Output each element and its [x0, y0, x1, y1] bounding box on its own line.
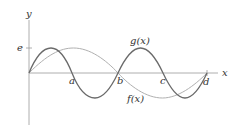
g-label: g(x)	[130, 35, 150, 46]
y-axis-label: y	[25, 8, 32, 19]
function-plot: y x e a b c d g(x) f(x)	[0, 0, 236, 131]
point-c-label: c	[160, 75, 166, 86]
point-b-label: b	[117, 75, 123, 86]
x-axis-label: x	[222, 67, 228, 78]
f-label: f(x)	[126, 93, 144, 104]
point-a-label: a	[69, 75, 75, 86]
e-label: e	[17, 42, 23, 53]
point-d-label: d	[203, 76, 209, 87]
